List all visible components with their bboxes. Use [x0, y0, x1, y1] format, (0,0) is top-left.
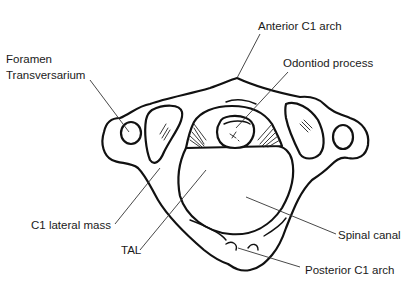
leader-lateral-mass: [115, 168, 160, 224]
label-odontoid-process: Odontiod process: [283, 57, 373, 70]
label-posterior-c1-arch: Posterior C1 arch: [305, 264, 394, 277]
label-spinal-canal: Spinal canal: [338, 229, 401, 242]
label-c1-lateral-mass: C1 lateral mass: [31, 219, 111, 232]
atlas-diagram: Anterior C1 arch Odontiod process Forame…: [0, 0, 418, 295]
atlas-illustration: [0, 0, 418, 295]
label-transversarium: Transversarium: [6, 69, 85, 82]
right-foramen-transversarium: [333, 125, 353, 149]
leader-anterior-arch: [237, 34, 260, 78]
label-tal: TAL: [121, 244, 141, 257]
label-anterior-c1-arch: Anterior C1 arch: [258, 20, 342, 33]
label-foramen: Foramen: [6, 53, 52, 66]
